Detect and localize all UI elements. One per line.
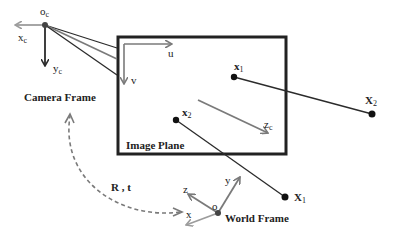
world-origin-label: o bbox=[212, 200, 218, 212]
ray-x1-X2 bbox=[234, 77, 372, 114]
camera-origin-label: oc bbox=[40, 5, 50, 19]
camera-projection-diagram: oc xc yc Camera Frame u v Image Plane zc… bbox=[0, 0, 395, 240]
world-z-label: z bbox=[183, 183, 188, 195]
world-y-label: y bbox=[225, 174, 231, 186]
image-point-x2 bbox=[173, 117, 179, 123]
camera-x-label: xc bbox=[18, 31, 28, 45]
world-x-label: x bbox=[186, 208, 192, 220]
transform-label: R , t bbox=[111, 181, 131, 193]
image-plane-frame bbox=[118, 37, 286, 154]
world-point-X1 bbox=[282, 194, 289, 201]
world-frame-label: World Frame bbox=[225, 212, 289, 224]
camera-y-label: yc bbox=[53, 62, 63, 76]
u-label: u bbox=[168, 47, 174, 59]
transform-arc bbox=[69, 116, 180, 213]
camera-origin-point bbox=[42, 22, 48, 28]
x1-label: x1 bbox=[234, 60, 244, 74]
x2-label: x2 bbox=[182, 106, 192, 120]
X2-label: X2 bbox=[365, 94, 377, 108]
image-plane-label: Image Plane bbox=[126, 139, 184, 151]
v-label: v bbox=[131, 74, 137, 86]
optical-axis-zc bbox=[198, 100, 268, 133]
X1-label: X1 bbox=[294, 191, 306, 205]
image-point-x1 bbox=[231, 74, 237, 80]
world-point-X2 bbox=[369, 111, 376, 118]
camera-frame-label: Camera Frame bbox=[24, 91, 96, 103]
zc-label: zc bbox=[264, 118, 273, 132]
